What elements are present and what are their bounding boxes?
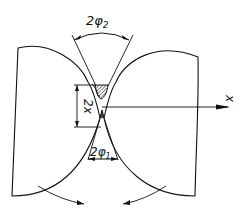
arrowhead-icon	[75, 85, 79, 91]
arrowhead-icon	[216, 105, 230, 110]
bottom-angle-label: 2φ1	[90, 145, 111, 161]
top-angle-line-left	[72, 35, 96, 86]
top-angle-arc	[74, 33, 129, 40]
gap-label: 2x	[81, 99, 95, 115]
top-angle-line-right	[108, 35, 133, 86]
hatched-region	[95, 85, 108, 99]
left-body-outline	[12, 46, 100, 196]
top-angle-label: 2φ2	[86, 13, 109, 30]
contact-diagram: 2φ2 2φ1 2x x	[0, 0, 246, 214]
arrowhead-icon	[122, 35, 129, 40]
lower-tip	[100, 110, 104, 118]
axis-label: x	[223, 94, 237, 103]
arrowhead-icon	[74, 35, 81, 40]
arrowhead-icon	[75, 121, 79, 127]
right-body-outline	[104, 51, 198, 196]
